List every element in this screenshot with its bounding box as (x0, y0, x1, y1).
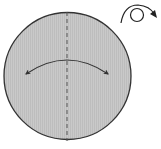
origami-diagram (0, 0, 161, 149)
turn-over-icon (121, 5, 157, 23)
